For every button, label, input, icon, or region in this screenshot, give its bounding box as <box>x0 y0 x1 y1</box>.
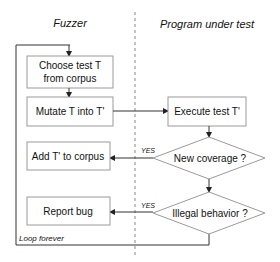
yes-label-coverage: YES <box>141 147 155 154</box>
choose-test-label-line1: Choose test T <box>39 60 101 71</box>
add-to-corpus-label: Add T' to corpus <box>32 151 104 162</box>
mutate-label: Mutate T into T' <box>36 106 105 117</box>
fuzzer-lane-title: Fuzzer <box>53 17 88 29</box>
report-bug-label: Report bug <box>43 206 92 217</box>
program-lane-title: Program under test <box>160 18 255 30</box>
new-coverage-label: New coverage ? <box>174 153 247 164</box>
yes-label-illegal: YES <box>141 202 155 209</box>
fuzzing-loop-diagram: Fuzzer Program under test Loop forever C… <box>0 0 280 262</box>
loop-forever-label: Loop forever <box>19 234 64 243</box>
illegal-behavior-label: Illegal behavior ? <box>172 208 248 219</box>
choose-test-label-line2: from corpus <box>44 73 97 84</box>
execute-label: Execute test T' <box>174 106 240 117</box>
